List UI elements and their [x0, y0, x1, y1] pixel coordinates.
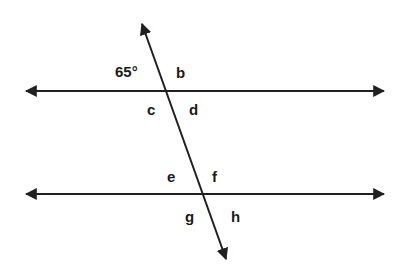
angle-label-g: g [185, 209, 194, 224]
transversal-line [142, 24, 226, 259]
geometry-diagram: 65° b c d e f g h [0, 0, 411, 278]
angle-label-b: b [176, 65, 185, 80]
angle-label-65-degrees: 65° [115, 64, 138, 79]
angle-label-c: c [147, 102, 155, 117]
angle-label-h: h [231, 209, 240, 224]
angle-label-f: f [212, 169, 217, 184]
geometry-figure [0, 0, 411, 278]
angle-label-e: e [167, 169, 175, 184]
angle-label-d: d [189, 102, 198, 117]
